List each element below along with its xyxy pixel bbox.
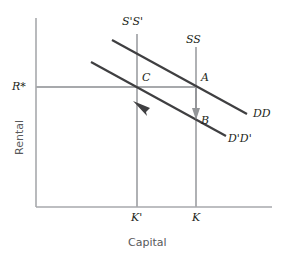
x-tick-label-capital-shifted: K'	[131, 212, 142, 223]
demand-curve	[112, 40, 247, 114]
demand-label: DD	[253, 108, 271, 119]
y-axis-title: Rental	[14, 120, 25, 155]
point-label-a: A	[201, 72, 209, 83]
point-label-c: C	[142, 72, 150, 83]
x-tick-label-capital: K	[192, 212, 200, 223]
supply-label: SS	[186, 34, 201, 45]
demand-shift-arrow-head	[133, 101, 150, 116]
x-axis-title: Capital	[128, 237, 167, 248]
supply-shifted-label: S'S'	[122, 16, 143, 27]
diagram-canvas	[0, 0, 285, 261]
demand-shifted-label: D'D'	[228, 133, 252, 144]
point-label-b: B	[201, 115, 209, 126]
economics-diagram: S'S' SS DD D'D' C A B R* K' K Rental Cap…	[0, 0, 285, 261]
y-tick-label-rental: R*	[12, 81, 26, 92]
